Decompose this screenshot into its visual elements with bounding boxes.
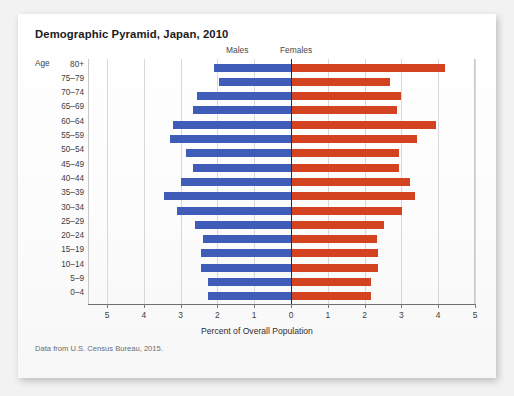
age-tick-label: 50–54 bbox=[40, 145, 84, 154]
center-axis-line bbox=[291, 59, 292, 304]
age-tick-label: 5–9 bbox=[40, 274, 84, 283]
bar-female bbox=[292, 164, 399, 172]
bar-female bbox=[292, 178, 410, 186]
pyramid-row bbox=[88, 275, 475, 289]
bar-female bbox=[292, 92, 401, 100]
gridline bbox=[475, 59, 476, 304]
bar-male bbox=[197, 92, 291, 100]
x-tick-label: 4 bbox=[134, 310, 154, 320]
x-axis-line bbox=[88, 304, 475, 305]
x-tick-label: 1 bbox=[244, 310, 264, 320]
legend-label-males: Males bbox=[226, 45, 248, 55]
x-tick-mark bbox=[291, 304, 292, 308]
bar-female bbox=[292, 121, 436, 129]
plot-area bbox=[88, 59, 475, 304]
bar-female bbox=[292, 292, 371, 300]
age-tick-label: 60–64 bbox=[40, 117, 84, 126]
age-tick-label: 55–59 bbox=[40, 131, 84, 140]
bar-male bbox=[173, 121, 291, 129]
bar-female bbox=[292, 149, 399, 157]
x-tick-mark bbox=[438, 304, 439, 308]
x-axis-title: Percent of Overall Population bbox=[18, 326, 496, 336]
x-tick-mark bbox=[401, 304, 402, 308]
age-tick-label: 75–79 bbox=[40, 74, 84, 83]
age-tick-label: 30–34 bbox=[40, 203, 84, 212]
bar-male bbox=[195, 221, 291, 229]
x-tick-label: 5 bbox=[97, 310, 117, 320]
x-tick-mark bbox=[107, 304, 108, 308]
pyramid-row bbox=[88, 218, 475, 232]
pyramid-row bbox=[88, 132, 475, 146]
x-tick-mark bbox=[328, 304, 329, 308]
bar-male bbox=[193, 106, 291, 114]
x-tick-label: 4 bbox=[428, 310, 448, 320]
age-tick-label: 0–4 bbox=[40, 288, 84, 297]
bar-female bbox=[292, 135, 417, 143]
age-tick-label: 25–29 bbox=[40, 217, 84, 226]
pyramid-row bbox=[88, 118, 475, 132]
bar-male bbox=[193, 164, 291, 172]
pyramid-row bbox=[88, 246, 475, 260]
x-tick-label: 0 bbox=[281, 310, 301, 320]
bar-female bbox=[292, 264, 378, 272]
x-tick-label: 5 bbox=[465, 310, 485, 320]
age-tick-label: 70–74 bbox=[40, 88, 84, 97]
bar-male bbox=[219, 78, 291, 86]
pyramid-row bbox=[88, 204, 475, 218]
bar-male bbox=[181, 178, 291, 186]
bar-female bbox=[292, 192, 415, 200]
x-tick-label: 1 bbox=[318, 310, 338, 320]
pyramid-row bbox=[88, 146, 475, 160]
bar-female bbox=[292, 106, 397, 114]
pyramid-row bbox=[88, 61, 475, 75]
bar-male bbox=[177, 207, 291, 215]
age-tick-label: 35–39 bbox=[40, 188, 84, 197]
figure-root: Demographic Pyramid, Japan, 2010 Males F… bbox=[0, 0, 514, 396]
pyramid-row bbox=[88, 289, 475, 303]
bar-female bbox=[292, 235, 377, 243]
x-tick-mark bbox=[181, 304, 182, 308]
pyramid-row bbox=[88, 103, 475, 117]
x-tick-label: 2 bbox=[207, 310, 227, 320]
x-tick-label: 3 bbox=[171, 310, 191, 320]
bar-male bbox=[170, 135, 291, 143]
age-tick-label: 15–19 bbox=[40, 245, 84, 254]
age-tick-label: 80+ bbox=[40, 60, 84, 69]
x-tick-label: 2 bbox=[355, 310, 375, 320]
bar-female bbox=[292, 64, 445, 72]
source-note: Data from U.S. Census Bureau, 2015. bbox=[35, 344, 163, 353]
pyramid-row bbox=[88, 261, 475, 275]
age-tick-label: 10–14 bbox=[40, 260, 84, 269]
x-tick-mark bbox=[365, 304, 366, 308]
figure-card: Demographic Pyramid, Japan, 2010 Males F… bbox=[18, 14, 496, 378]
pyramid-row bbox=[88, 75, 475, 89]
bar-female bbox=[292, 207, 402, 215]
x-tick-mark bbox=[254, 304, 255, 308]
bar-male bbox=[208, 278, 291, 286]
bar-female bbox=[292, 221, 384, 229]
bar-male bbox=[201, 264, 291, 272]
pyramid-row bbox=[88, 232, 475, 246]
bar-male bbox=[203, 235, 291, 243]
bar-male bbox=[201, 249, 291, 257]
bar-male bbox=[214, 64, 291, 72]
x-tick-mark bbox=[217, 304, 218, 308]
x-tick-label: 3 bbox=[391, 310, 411, 320]
bar-male bbox=[186, 149, 291, 157]
bar-female bbox=[292, 78, 390, 86]
legend-label-females: Females bbox=[280, 45, 312, 55]
pyramid-row bbox=[88, 189, 475, 203]
bar-female bbox=[292, 249, 378, 257]
bar-male bbox=[208, 292, 291, 300]
pyramid-row bbox=[88, 89, 475, 103]
age-tick-label: 65–69 bbox=[40, 102, 84, 111]
x-tick-mark bbox=[475, 304, 476, 308]
chart-title: Demographic Pyramid, Japan, 2010 bbox=[35, 28, 228, 40]
pyramid-row bbox=[88, 175, 475, 189]
pyramid-row bbox=[88, 161, 475, 175]
bar-female bbox=[292, 278, 371, 286]
age-tick-label: 20–24 bbox=[40, 231, 84, 240]
x-tick-mark bbox=[144, 304, 145, 308]
figure-card-surface: Demographic Pyramid, Japan, 2010 Males F… bbox=[18, 14, 496, 378]
age-tick-label: 45–49 bbox=[40, 160, 84, 169]
